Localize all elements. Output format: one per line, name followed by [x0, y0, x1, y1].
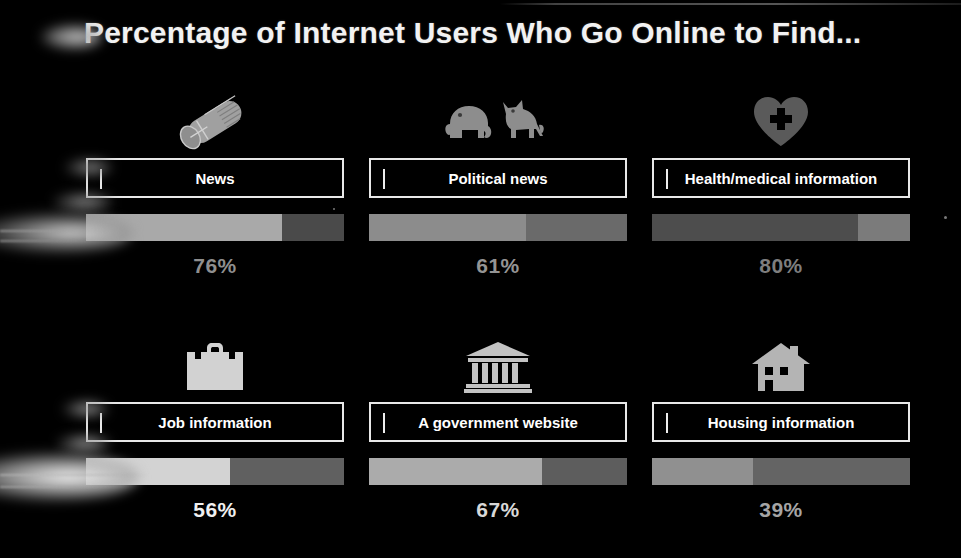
stat-card-grid: News 76% — [0, 0, 961, 558]
progress-bar — [86, 458, 344, 485]
stat-label: Housing information — [702, 414, 861, 431]
progress-bar — [652, 214, 910, 241]
progress-bar — [86, 214, 344, 241]
heart-medical-icon — [652, 88, 910, 150]
slide-canvas: Percentage of Internet Users Who Go Onli… — [0, 0, 961, 558]
stat-card[interactable]: Job information 56% — [86, 332, 344, 522]
newspaper-icon — [86, 88, 344, 150]
stat-label: Political news — [442, 170, 553, 187]
progress-fill — [652, 458, 753, 485]
label-tick-icon — [100, 169, 102, 189]
stat-label: Health/medical information — [679, 170, 884, 187]
briefcase-icon — [86, 332, 344, 394]
label-tick-icon — [100, 413, 102, 433]
label-tick-icon — [383, 169, 385, 189]
progress-fill — [652, 214, 858, 241]
stat-label-box[interactable]: Political news — [369, 158, 627, 198]
house-icon — [652, 332, 910, 394]
stat-label-box[interactable]: A government website — [369, 402, 627, 442]
stat-card[interactable]: Political news 61% — [369, 88, 627, 278]
stat-label-box[interactable]: Job information — [86, 402, 344, 442]
progress-bar — [652, 458, 910, 485]
progress-bar — [369, 458, 627, 485]
government-building-icon — [369, 332, 627, 394]
stat-label-box[interactable]: Health/medical information — [652, 158, 910, 198]
stat-value: 39% — [652, 498, 910, 522]
stat-card[interactable]: Housing information 39% — [652, 332, 910, 522]
stat-label-box[interactable]: News — [86, 158, 344, 198]
stat-value: 80% — [652, 254, 910, 278]
stat-label: News — [189, 170, 240, 187]
progress-bar — [369, 214, 627, 241]
stat-value: 76% — [86, 254, 344, 278]
progress-fill — [86, 214, 282, 241]
progress-fill — [86, 458, 230, 485]
label-tick-icon — [383, 413, 385, 433]
label-tick-icon — [666, 169, 668, 189]
stat-card[interactable]: A government website 67% — [369, 332, 627, 522]
stat-label-box[interactable]: Housing information — [652, 402, 910, 442]
stat-value: 61% — [369, 254, 627, 278]
stat-value: 67% — [369, 498, 627, 522]
elephant-donkey-icon — [369, 88, 627, 150]
stat-label: A government website — [412, 414, 583, 431]
stat-value: 56% — [86, 498, 344, 522]
stat-card[interactable]: News 76% — [86, 88, 344, 278]
stat-card[interactable]: Health/medical information 80% — [652, 88, 910, 278]
stat-label: Job information — [152, 414, 277, 431]
progress-fill — [369, 458, 542, 485]
progress-fill — [369, 214, 526, 241]
label-tick-icon — [666, 413, 668, 433]
